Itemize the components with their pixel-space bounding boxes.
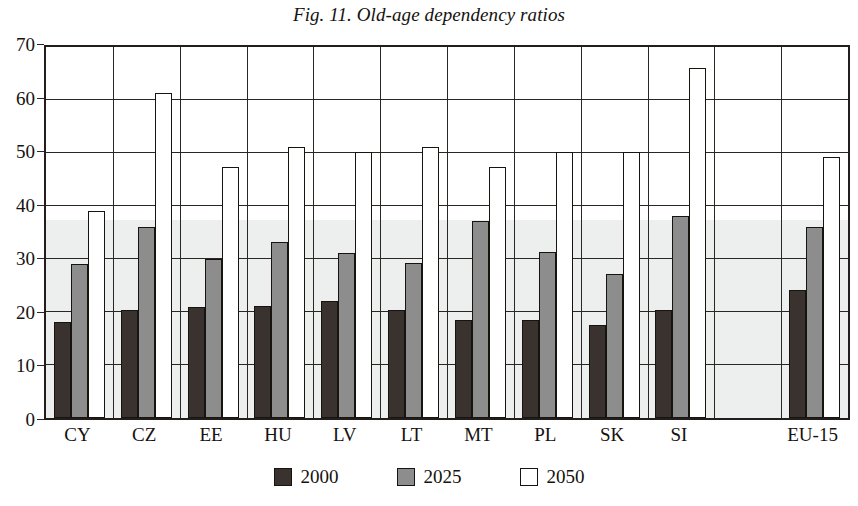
- legend-item-2025[interactable]: 2025: [397, 466, 462, 488]
- bar-ee-2050: [222, 167, 239, 418]
- bar-group-ee: [180, 47, 247, 418]
- bar-hu-2025: [271, 242, 288, 418]
- bar-group-sk: [581, 47, 648, 418]
- y-tick-label: 10: [16, 355, 35, 377]
- x-tick-label-pl: PL: [534, 424, 556, 446]
- legend-item-2050[interactable]: 2050: [520, 466, 585, 488]
- bar-lv-2025: [338, 253, 355, 418]
- legend-swatch-2000: [274, 468, 292, 486]
- bar-cy-2000: [54, 322, 71, 418]
- bar-lt-2025: [405, 263, 422, 418]
- x-tick-label-sk: SK: [600, 424, 624, 446]
- bar-cy-2025: [71, 264, 88, 418]
- legend-swatch-2050: [520, 468, 538, 486]
- bar-group-bars: [180, 47, 247, 418]
- y-tick-mark: [37, 151, 44, 152]
- bar-si-2050: [689, 68, 706, 418]
- bar-pl-2025: [539, 252, 556, 418]
- bar-ee-2025: [205, 259, 222, 418]
- bar-group-bars: [581, 47, 648, 418]
- x-tick-label-mt: MT: [464, 424, 493, 446]
- bar-cz-2000: [121, 310, 138, 418]
- chart-legend: 200020252050: [0, 466, 858, 488]
- bar-group-lv: [313, 47, 380, 418]
- x-tick-label-ee: EE: [199, 424, 222, 446]
- bar-group-mt: [447, 47, 514, 418]
- bar-hu-2050: [288, 147, 305, 418]
- chart-title: Fig. 11. Old-age dependency ratios: [0, 4, 858, 26]
- plot-area: [44, 45, 850, 420]
- bar-lv-2000: [321, 301, 338, 418]
- bar-group-empty: [714, 47, 781, 418]
- y-tick-label: 30: [16, 248, 35, 270]
- legend-label-2000: 2000: [301, 466, 339, 488]
- y-tick-mark: [37, 98, 44, 99]
- bar-group-bars: [781, 47, 848, 418]
- figure-old-age-dependency-ratios: Fig. 11. Old-age dependency ratios 01020…: [0, 0, 858, 506]
- y-tick-mark: [37, 419, 44, 420]
- bar-lv-2050: [355, 152, 372, 418]
- bar-sk-2050: [623, 152, 640, 418]
- bar-group-si: [648, 47, 715, 418]
- bar-sk-2025: [606, 274, 623, 418]
- y-tick-label: 20: [16, 302, 35, 324]
- bar-pl-2050: [556, 152, 573, 418]
- bar-eu-15-2050: [823, 157, 840, 418]
- bar-group-bars: [113, 47, 180, 418]
- bar-group-cy: [46, 47, 113, 418]
- bar-eu-15-2025: [806, 227, 823, 418]
- bar-sk-2000: [589, 325, 606, 418]
- y-tick-mark: [37, 44, 44, 45]
- legend-swatch-2025: [397, 468, 415, 486]
- x-tick-label-hu: HU: [264, 424, 291, 446]
- bar-mt-2050: [489, 167, 506, 418]
- y-tick-label: 0: [26, 409, 36, 431]
- y-axis: 010203040506070: [0, 45, 44, 420]
- x-tick-label-lt: LT: [401, 424, 422, 446]
- bar-group-cz: [113, 47, 180, 418]
- y-tick-mark: [37, 312, 44, 313]
- y-tick-label: 40: [16, 195, 35, 217]
- y-tick-label: 50: [16, 141, 35, 163]
- x-tick-label-lv: LV: [333, 424, 357, 446]
- bar-group-lt: [380, 47, 447, 418]
- bar-lt-2000: [388, 310, 405, 418]
- bar-si-2000: [655, 310, 672, 418]
- legend-label-2050: 2050: [547, 466, 585, 488]
- bar-hu-2000: [254, 306, 271, 418]
- bar-group-bars: [648, 47, 715, 418]
- x-tick-label-eu-15: EU-15: [787, 424, 838, 446]
- y-tick-mark: [37, 365, 44, 366]
- legend-label-2025: 2025: [424, 466, 462, 488]
- bar-ee-2000: [188, 307, 205, 418]
- bar-group-bars: [247, 47, 314, 418]
- y-tick-mark: [37, 205, 44, 206]
- bar-group-bars: [313, 47, 380, 418]
- bar-mt-2000: [455, 320, 472, 418]
- y-tick-mark: [37, 258, 44, 259]
- x-tick-label-cz: CZ: [132, 424, 156, 446]
- bar-group-bars: [514, 47, 581, 418]
- bar-cy-2050: [88, 211, 105, 418]
- bar-si-2025: [672, 216, 689, 418]
- bar-group-bars: [447, 47, 514, 418]
- x-axis-labels: CYCZEEHULVLTMTPLSKSIEU-15: [44, 424, 850, 454]
- bar-group-bars: [46, 47, 113, 418]
- bar-lt-2050: [422, 147, 439, 418]
- y-tick-label: 60: [16, 88, 35, 110]
- bar-group-pl: [514, 47, 581, 418]
- bar-group-bars: [714, 47, 781, 418]
- legend-item-2000[interactable]: 2000: [274, 466, 339, 488]
- bar-group-bars: [380, 47, 447, 418]
- bar-eu-15-2000: [789, 290, 806, 418]
- bar-group-hu: [247, 47, 314, 418]
- bar-pl-2000: [522, 320, 539, 418]
- bar-cz-2050: [155, 93, 172, 418]
- x-tick-label-cy: CY: [64, 424, 90, 446]
- bar-cz-2025: [138, 227, 155, 418]
- bar-group-eu-15: [781, 47, 848, 418]
- bar-mt-2025: [472, 221, 489, 418]
- x-tick-label-si: SI: [670, 424, 687, 446]
- y-tick-label: 70: [16, 34, 35, 56]
